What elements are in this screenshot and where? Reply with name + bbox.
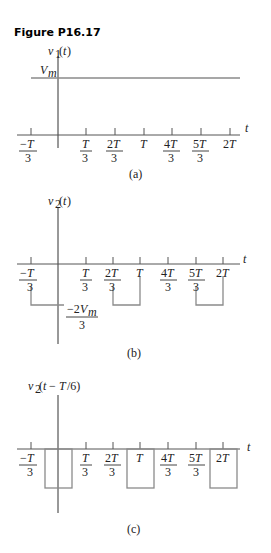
svg-text:3: 3 [82,465,88,479]
svg-text:3: 3 [197,151,203,165]
caption-c: (c) [127,522,140,536]
svg-text:v: v [48,44,54,58]
svg-text:T: T [136,266,144,280]
svg-text:t: t [243,252,247,266]
svg-text:T: T [136,451,144,465]
caption-b: (b) [127,346,141,360]
svg-text:T: T [113,137,121,151]
svg-text:T: T [170,137,178,151]
caption-a: (a) [129,167,142,181]
svg-text:3: 3 [168,151,174,165]
svg-text:T: T [82,137,90,151]
svg-text:3: 3 [27,465,33,479]
svg-text:T: T [27,451,35,465]
svg-text:T: T [222,451,230,465]
svg-text:−: − [20,137,27,151]
svg-text:−: − [20,266,27,280]
svg-text:T: T [167,451,175,465]
svg-text:m: m [48,66,57,80]
svg-text:3: 3 [193,280,199,294]
svg-text:3: 3 [109,465,115,479]
svg-text:3: 3 [27,280,33,294]
svg-text:v: v [48,194,54,208]
svg-text:T: T [195,266,203,280]
svg-text:T: T [27,137,35,151]
svg-text:T: T [82,266,90,280]
panel-c: v2(t−T/6) t −T3 T3 2T3 T 4T3 5T3 2T (c) [17,379,251,536]
svg-text:3: 3 [111,151,117,165]
svg-text:−: − [20,451,27,465]
svg-text:−2: −2 [67,302,80,316]
svg-text:3: 3 [25,151,31,165]
svg-text:3: 3 [109,280,115,294]
svg-text:3: 3 [165,280,171,294]
svg-text:t: t [43,379,47,393]
svg-text:T: T [195,451,203,465]
svg-text:3: 3 [193,465,199,479]
svg-text:/6): /6) [67,379,80,393]
panel-a: v1(t) Vm t −T3 T3 2T3 T 4T3 5T3 2T (a) [17,44,249,181]
svg-text:−: − [49,379,56,393]
svg-text:T: T [229,137,237,151]
svg-text:T: T [140,137,148,151]
svg-text:3: 3 [82,151,88,165]
svg-text:v: v [28,379,34,393]
svg-text:3: 3 [165,465,171,479]
svg-text:T: T [111,451,119,465]
svg-text:t: t [247,440,251,454]
svg-text:t: t [245,121,249,135]
waveform-figure: v1(t) Vm t −T3 T3 2T3 T 4T3 5T3 2T (a) v… [0,0,271,553]
svg-text:T: T [111,266,119,280]
panel-b: v2(t) t −T3 T3 2T3 T 4T3 5T3 2T −2Vm 3 (… [17,194,247,360]
svg-text:3: 3 [82,280,88,294]
svg-text:): ) [67,44,71,58]
svg-text:T: T [27,266,35,280]
svg-text:T: T [222,266,230,280]
svg-text:3: 3 [79,318,85,332]
svg-text:): ) [67,194,71,208]
svg-text:T: T [199,137,207,151]
svg-text:T: T [82,451,90,465]
svg-text:T: T [59,379,67,393]
svg-text:T: T [167,266,175,280]
